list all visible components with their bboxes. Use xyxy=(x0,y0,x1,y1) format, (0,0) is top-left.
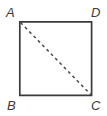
geometry-figure: A D B C xyxy=(0,0,107,116)
vertex-label-d: D xyxy=(91,6,100,19)
vertex-label-c: C xyxy=(91,99,100,112)
diagonal-line-AC xyxy=(21,23,91,95)
vertex-label-b: B xyxy=(7,99,16,112)
vertex-label-a: A xyxy=(6,6,15,19)
